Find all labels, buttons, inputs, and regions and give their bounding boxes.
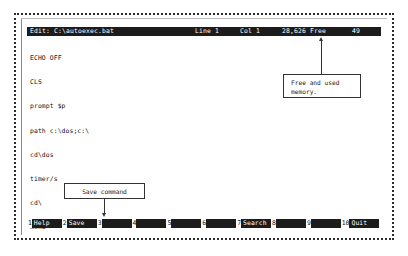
function-key-label: Help <box>32 219 62 228</box>
editor-text-area[interactable]: ECHO OFF CLS prompt $p path c:\dos;c:\ c… <box>30 38 378 247</box>
memory-annotation-callout: Free and used memory. <box>283 74 361 98</box>
status-col-indicator: Col 1 <box>240 27 260 36</box>
status-line-indicator: Line 1 <box>195 27 219 36</box>
function-key-label: Search <box>241 219 271 228</box>
save-annotation-callout: Save command <box>64 183 145 199</box>
function-key-bar: 1 Help 2 Save 3 4 5 6 <box>27 219 381 228</box>
code-line: timer/s <box>30 175 378 183</box>
function-key-8[interactable]: 8 <box>271 219 306 228</box>
status-memory-indicator: 28,626 Free <box>282 27 326 36</box>
function-key-label <box>136 219 166 228</box>
function-key-10[interactable]: 10 Quit <box>341 219 380 228</box>
function-key-number: 10 <box>341 219 350 228</box>
save-annotation-line-1: Save command <box>65 187 144 196</box>
function-key-label: Quit <box>349 219 379 228</box>
editor-file-title: Edit: C:\autoexec.bat <box>30 27 114 36</box>
function-key-label <box>276 219 306 228</box>
code-line: cd\dos <box>30 151 378 159</box>
function-key-9[interactable]: 9 <box>306 219 341 228</box>
status-right-indicator: 49 <box>352 27 360 36</box>
editor-title-bar: Edit: C:\autoexec.bat Line 1 Col 1 28,62… <box>27 27 381 36</box>
scanned-page: Edit: C:\autoexec.bat Line 1 Col 1 28,62… <box>0 0 408 256</box>
function-key-label <box>311 219 341 228</box>
function-key-4[interactable]: 4 <box>132 219 167 228</box>
function-key-label <box>171 219 201 228</box>
function-key-7[interactable]: 7 Search <box>236 219 271 228</box>
function-key-label: Save <box>67 219 97 228</box>
code-line: cd\ <box>30 199 378 207</box>
code-line: prompt $p <box>30 102 378 110</box>
function-key-3[interactable]: 3 <box>97 219 132 228</box>
function-key-6[interactable]: 6 <box>201 219 236 228</box>
memory-annotation-line-1: Free and used <box>291 78 360 87</box>
function-key-2[interactable]: 2 Save <box>62 219 97 228</box>
function-key-5[interactable]: 5 <box>166 219 201 228</box>
memory-annotation-line-2: memory. <box>291 87 360 96</box>
save-callout-arrowhead-icon <box>102 213 106 217</box>
function-key-1[interactable]: 1 Help <box>27 219 62 228</box>
function-key-label <box>102 219 132 228</box>
memory-callout-leader-line <box>321 40 322 74</box>
save-callout-leader-line <box>104 199 105 214</box>
code-line: path c:\dos;c:\ <box>30 127 378 135</box>
code-line: ECHO OFF <box>30 54 378 62</box>
function-key-label <box>206 219 236 228</box>
